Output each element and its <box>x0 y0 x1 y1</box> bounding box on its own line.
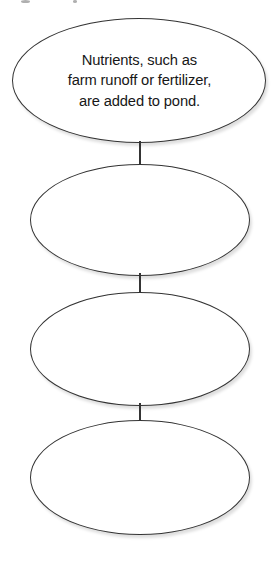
flow-chart-diagram: Nutrients, such as farm runoff or fertil… <box>0 0 277 561</box>
flow-connector-1-2 <box>139 141 141 166</box>
flow-connector-2-3 <box>139 273 141 294</box>
cropped-text-fragments <box>0 0 277 10</box>
flow-node-4[interactable] <box>30 420 250 535</box>
flow-node-2[interactable] <box>30 164 250 276</box>
flow-node-3[interactable] <box>30 292 250 406</box>
flow-node-1-label: Nutrients, such as farm runoff or fertil… <box>54 50 224 111</box>
cropped-glyph-fragment <box>21 0 30 3</box>
cropped-glyph-fragment <box>73 0 77 3</box>
flow-node-1[interactable]: Nutrients, such as farm runoff or fertil… <box>12 18 266 143</box>
